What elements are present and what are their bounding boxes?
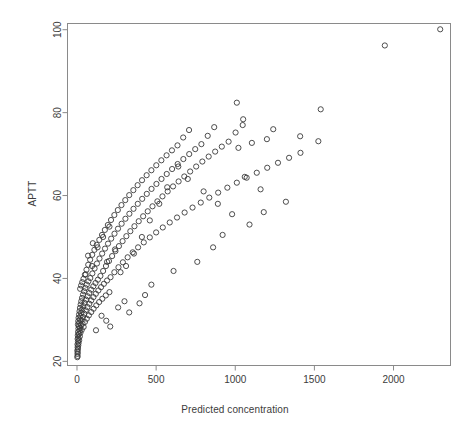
data-point xyxy=(247,222,252,227)
data-point xyxy=(236,145,241,150)
data-point xyxy=(108,275,113,280)
data-point xyxy=(135,245,140,250)
data-point xyxy=(283,199,288,204)
data-point xyxy=(298,134,303,139)
data-point xyxy=(316,139,321,144)
x-tick-label: 1500 xyxy=(303,374,326,385)
data-point xyxy=(149,168,154,173)
data-point xyxy=(154,163,159,168)
data-point xyxy=(233,130,238,135)
data-point xyxy=(125,255,130,260)
data-point xyxy=(116,265,121,270)
data-point xyxy=(171,268,176,273)
data-point xyxy=(160,194,165,199)
data-point xyxy=(140,196,145,201)
data-point xyxy=(382,43,387,48)
data-point xyxy=(94,261,99,266)
data-point xyxy=(241,117,246,122)
data-point xyxy=(123,216,128,221)
data-point xyxy=(97,256,102,261)
data-point xyxy=(207,195,212,200)
data-point xyxy=(240,122,245,127)
data-point xyxy=(242,174,247,179)
data-point xyxy=(122,299,127,304)
data-point xyxy=(216,190,221,195)
data-point xyxy=(254,170,259,175)
axis-ticks xyxy=(63,30,394,371)
data-point xyxy=(264,137,269,142)
data-point xyxy=(142,292,147,297)
plot-canvas: 050010001500200020406080100 xyxy=(0,0,470,435)
data-point xyxy=(249,140,254,145)
data-point xyxy=(265,165,270,170)
data-point xyxy=(100,251,105,256)
data-point xyxy=(141,214,146,219)
data-point xyxy=(220,232,225,237)
data-point xyxy=(234,100,239,105)
data-point xyxy=(150,204,155,209)
data-point xyxy=(234,180,239,185)
data-point xyxy=(99,313,104,318)
data-point xyxy=(164,171,169,176)
data-point xyxy=(198,200,203,205)
y-tick-label: 40 xyxy=(52,272,63,284)
axis-tick-labels: 050010001500200020406080100 xyxy=(52,21,405,385)
data-point xyxy=(275,160,280,165)
data-point xyxy=(136,219,141,224)
data-point xyxy=(112,270,117,275)
data-point xyxy=(97,299,102,304)
data-point xyxy=(112,212,117,217)
data-point xyxy=(123,198,128,203)
data-point xyxy=(145,209,150,214)
x-tick-label: 500 xyxy=(148,374,165,385)
data-point xyxy=(261,210,266,215)
data-point xyxy=(164,153,169,158)
data-point xyxy=(318,107,323,112)
data-point xyxy=(215,201,220,206)
data-point xyxy=(298,150,303,155)
data-point xyxy=(98,273,103,278)
data-point xyxy=(80,292,85,297)
data-point xyxy=(181,156,186,161)
data-point xyxy=(175,143,180,148)
data-point xyxy=(112,231,117,236)
data-point xyxy=(188,169,193,174)
data-point xyxy=(78,286,83,291)
data-point xyxy=(286,155,291,160)
data-point xyxy=(98,285,103,290)
data-point xyxy=(105,241,110,246)
data-point xyxy=(147,218,152,223)
data-point xyxy=(79,283,84,288)
data-point xyxy=(139,234,144,239)
data-point xyxy=(213,149,218,154)
data-point xyxy=(115,207,120,212)
data-point xyxy=(149,186,154,191)
data-point xyxy=(187,151,192,156)
plot-frame xyxy=(68,24,451,366)
data-point xyxy=(119,221,124,226)
x-tick-label: 2000 xyxy=(382,374,405,385)
data-point xyxy=(139,178,144,183)
data-point xyxy=(186,127,191,132)
data-point xyxy=(193,147,198,152)
data-point xyxy=(195,259,200,264)
data-point xyxy=(131,188,136,193)
data-point xyxy=(109,236,114,241)
y-axis-title: APTT xyxy=(27,154,38,234)
data-point xyxy=(181,135,186,140)
data-point xyxy=(127,193,132,198)
data-point xyxy=(127,310,132,315)
data-point xyxy=(108,217,113,222)
data-point xyxy=(137,301,142,306)
data-point xyxy=(258,187,263,192)
x-axis-title: Predicted concentration xyxy=(0,404,470,415)
data-point xyxy=(80,280,85,285)
data-point xyxy=(199,142,204,147)
data-point xyxy=(135,183,140,188)
data-point xyxy=(144,173,149,178)
scatter-plot-figure: 050010001500200020406080100 APTT Predict… xyxy=(0,0,470,435)
data-points xyxy=(75,27,443,360)
data-point xyxy=(212,125,217,130)
x-tick-label: 1000 xyxy=(224,374,247,385)
data-point xyxy=(144,191,149,196)
